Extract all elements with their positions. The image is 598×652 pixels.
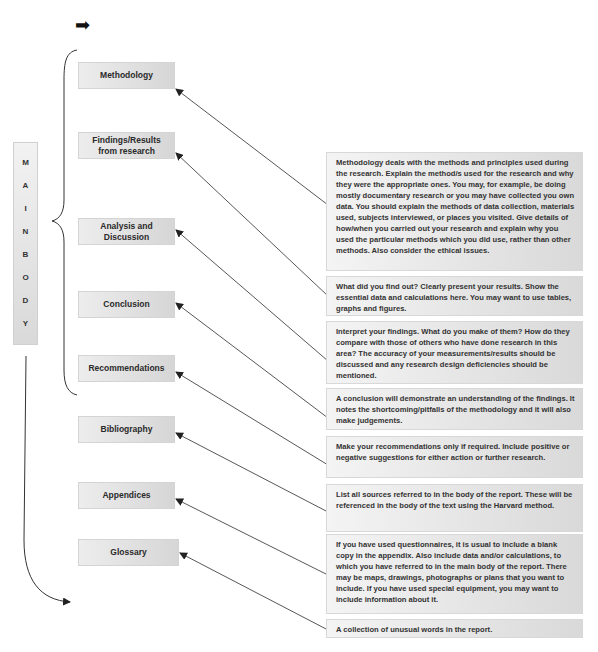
section-conclusion: Conclusion: [78, 291, 175, 318]
desc-appendices: If you have used questionnaires, it is u…: [326, 534, 583, 614]
main-body-letter: I: [24, 205, 26, 213]
main-body-letter: Y: [23, 320, 28, 328]
desc-glossary: A collection of unusual words in the rep…: [326, 619, 583, 638]
section-recommendations: Recommendations: [78, 355, 175, 382]
main-body-letter: N: [23, 228, 29, 236]
desc-recommendations: Make your recommendations only if requir…: [326, 436, 583, 478]
section-analysis: Analysis and Discussion: [78, 218, 175, 245]
main-body-letter: A: [23, 182, 29, 190]
desc-methodology: Methodology deals with the methods and p…: [326, 152, 583, 271]
main-body-letter: B: [23, 251, 29, 259]
desc-conclusion: A conclusion will demonstrate an underst…: [326, 388, 583, 430]
section-appendices: Appendices: [78, 482, 175, 509]
main-body-letter: O: [22, 274, 28, 282]
right-arrow-icon: ➡: [75, 16, 90, 34]
continuation-arrow: [24, 356, 70, 602]
section-glossary: Glossary: [78, 539, 179, 566]
main-body-letter: D: [23, 297, 29, 305]
section-methodology: Methodology: [78, 62, 175, 89]
main-body-brace: [52, 50, 77, 395]
main-body-label: M A I N B O D Y: [13, 142, 38, 345]
desc-analysis: Interpret your findings. What do you mak…: [326, 321, 583, 384]
section-findings: Findings/Results from research: [78, 132, 175, 159]
main-body-letter: M: [22, 159, 29, 167]
section-bibliography: Bibliography: [78, 416, 175, 443]
desc-findings: What did you find out? Clearly present y…: [326, 276, 583, 316]
desc-bibliography: List all sources referred to in the body…: [326, 484, 583, 532]
